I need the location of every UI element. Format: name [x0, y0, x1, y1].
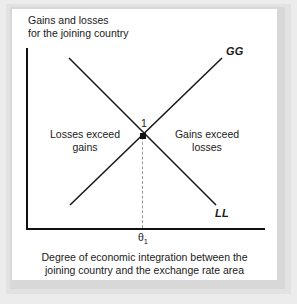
left-region-label: Losses exceed gains [38, 128, 132, 154]
chart-panel: Gains and losses for the joining country… [12, 9, 277, 280]
intersection-marker [140, 133, 146, 139]
theta-subscript: 1 [144, 237, 148, 246]
intersection-label: 1 [136, 117, 152, 129]
ll-curve-label: LL [215, 207, 229, 219]
x-tick-theta1: θ1 [128, 231, 158, 246]
figure-root: Gains and losses for the joining country… [0, 0, 297, 304]
right-region-label: Gains exceed losses [160, 128, 254, 154]
theta1-dropline [142, 137, 143, 228]
gg-curve-label: GG [226, 45, 244, 57]
x-axis-caption: Degree of economic integration between t… [12, 251, 277, 277]
